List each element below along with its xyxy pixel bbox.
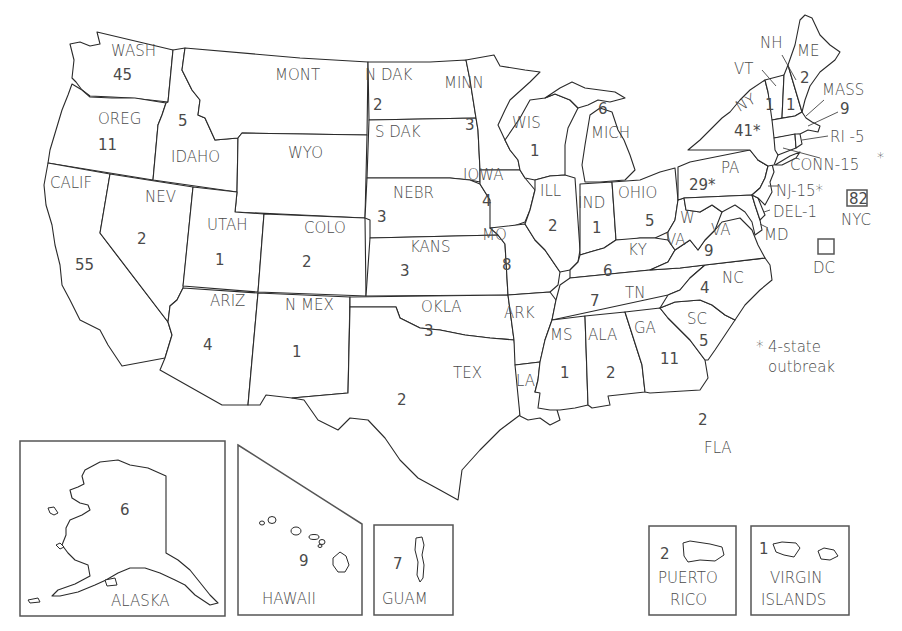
state-mont xyxy=(182,48,368,140)
label-kans: KANS xyxy=(410,238,451,256)
label-la: LA xyxy=(516,372,535,390)
label-utah: UTAH xyxy=(207,216,248,234)
count-sc: 5 xyxy=(699,332,709,350)
count-nh: 1 xyxy=(786,96,796,114)
count-puerto-rico: 2 xyxy=(660,545,670,563)
dc-box xyxy=(818,239,834,254)
label-tex: TEX xyxy=(453,364,482,382)
inset-alaska: 6 ALASKA xyxy=(20,441,225,616)
label-ind: IND xyxy=(578,194,605,212)
count-ohio: 5 xyxy=(645,212,655,230)
label-me: ME xyxy=(797,42,819,60)
state-shapes xyxy=(44,15,840,500)
label-md: MD xyxy=(764,226,789,244)
label-alaska: ALASKA xyxy=(111,592,170,610)
label-ky: KY xyxy=(628,241,647,259)
count-mass: 9 xyxy=(840,100,850,118)
count-ala: 2 xyxy=(606,364,616,382)
label-dc: DC xyxy=(813,259,835,277)
label-nebr: NEBR xyxy=(393,184,434,202)
count-nebr: 3 xyxy=(377,208,387,226)
label-tn: TN xyxy=(625,284,645,302)
label-ndak: N DAK xyxy=(365,66,413,84)
inset-virgin-islands: 1 VIRGIN ISLANDS xyxy=(751,526,849,615)
label-oreg: OREG xyxy=(98,110,141,128)
label-ms: MS xyxy=(550,326,572,344)
count-mo: 8 xyxy=(502,256,512,274)
count-ind: 1 xyxy=(592,219,602,237)
label-iowa: IOWA xyxy=(463,166,504,184)
count-tn: 7 xyxy=(590,292,600,310)
count-virgin-islands: 1 xyxy=(759,540,769,558)
label-nyc: NYC xyxy=(841,211,871,229)
count-utah: 1 xyxy=(215,251,225,269)
label-nh: NH xyxy=(760,34,783,52)
us-case-map: WASH 45 OREG 11 CALIF 55 IDAHO 5 NEV 2 M… xyxy=(0,0,902,631)
legend-line1: 4-state xyxy=(768,338,821,356)
state-ri xyxy=(795,134,802,148)
count-calif: 55 xyxy=(75,256,94,274)
label-hawaii: HAWAII xyxy=(262,590,316,608)
label-okla: OKLA xyxy=(421,298,462,316)
legend-line2: outbreak xyxy=(768,358,835,376)
label-islands: ISLANDS xyxy=(761,591,826,609)
label-wash: WASH xyxy=(111,42,156,60)
label-ri: RI -5 xyxy=(830,128,865,146)
legend-asterisk: * xyxy=(756,338,764,356)
count-okla: 3 xyxy=(424,322,434,340)
label-ohio: OHIO xyxy=(618,184,657,202)
label-minn: MINN xyxy=(444,74,484,92)
inset-hawaii: 9 HAWAII xyxy=(238,445,362,615)
label-vt: VT xyxy=(734,60,753,78)
count-ky: 6 xyxy=(603,262,613,280)
count-oreg: 11 xyxy=(98,136,117,154)
count-guam: 7 xyxy=(393,555,403,573)
label-ga: GA xyxy=(634,319,656,337)
count-iowa: 4 xyxy=(482,192,492,210)
count-nyc: 82 xyxy=(849,190,868,208)
count-ill: 2 xyxy=(548,217,558,235)
label-ark: ARK xyxy=(504,304,535,322)
label-nc: NC xyxy=(722,269,744,287)
label-ala: ALA xyxy=(588,326,617,344)
label-conn: CONN-15 xyxy=(790,156,859,174)
state-conn xyxy=(774,134,796,155)
count-idaho: 5 xyxy=(178,112,188,130)
count-tex: 2 xyxy=(397,391,407,409)
label-wva-w: W xyxy=(680,209,695,227)
legend: * 4-state outbreak xyxy=(756,338,835,376)
label-wyo: WYO xyxy=(288,144,323,162)
label-del: DEL-1 xyxy=(773,203,817,221)
count-ny: 41* xyxy=(734,122,761,140)
label-sc: SC xyxy=(687,310,707,328)
count-ga: 11 xyxy=(660,350,679,368)
label-ariz: ARIZ xyxy=(210,292,245,310)
count-kans: 3 xyxy=(400,262,410,280)
label-idaho: IDAHO xyxy=(171,148,220,166)
label-mass: MASS xyxy=(822,81,864,99)
label-mo: MO xyxy=(482,226,507,244)
label-mont: MONT xyxy=(275,66,320,84)
count-ndak: 2 xyxy=(373,96,383,114)
label-colo: COLO xyxy=(304,219,346,237)
count-alaska: 6 xyxy=(120,501,130,519)
count-ms: 1 xyxy=(560,364,570,382)
count-pa: 29* xyxy=(689,176,716,194)
label-virgin: VIRGIN xyxy=(770,569,822,587)
inset-puerto-rico: 2 PUERTO RICO xyxy=(649,526,736,615)
label-wis: WIS xyxy=(512,114,541,132)
count-wash: 45 xyxy=(113,66,132,84)
count-mich: 6 xyxy=(598,100,608,118)
count-wis: 1 xyxy=(530,142,540,160)
label-ill: ILL xyxy=(540,182,561,200)
count-nc: 4 xyxy=(700,279,710,297)
label-wva-va: VA xyxy=(666,231,686,249)
label-calif: CALIF xyxy=(50,174,92,192)
count-nmex: 1 xyxy=(292,343,302,361)
label-pa: PA xyxy=(721,159,739,177)
label-sdak: S DAK xyxy=(375,123,421,141)
inset-guam: 7 GUAM xyxy=(374,525,453,615)
count-fla: 2 xyxy=(698,411,708,429)
label-nmex: N MEX xyxy=(285,296,334,314)
label-va: VA xyxy=(711,221,731,239)
